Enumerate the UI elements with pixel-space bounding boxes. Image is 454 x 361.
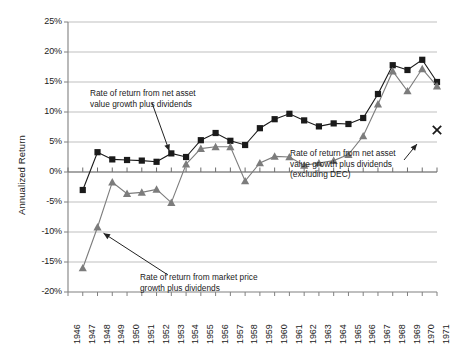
data-point-triangle xyxy=(418,65,426,72)
x-tick-label: 1969 xyxy=(412,324,422,344)
y-tick-label: 20% xyxy=(22,46,62,56)
data-point-square xyxy=(139,158,145,164)
x-tick-label: 1963 xyxy=(323,324,333,344)
data-point-square xyxy=(360,115,366,121)
data-point-square xyxy=(286,111,292,117)
data-point-triangle xyxy=(374,100,382,107)
x-tick-label: 1968 xyxy=(397,324,407,344)
y-tick-label: 5% xyxy=(22,136,62,146)
data-point-square xyxy=(183,154,189,160)
y-tick-label: 15% xyxy=(22,76,62,86)
data-point-square xyxy=(198,137,204,143)
x-tick-label: 1965 xyxy=(353,324,363,344)
x-tick-label: 1959 xyxy=(264,324,274,344)
data-point-triangle xyxy=(152,185,160,192)
x-tick-label: 1949 xyxy=(116,324,126,344)
data-point-square xyxy=(242,142,248,148)
x-tick-label: 1964 xyxy=(338,324,348,344)
y-tick-label: -20% xyxy=(22,286,62,296)
annotation-market: Rate of return from market price growth … xyxy=(140,272,258,293)
annotation-nav-ex-dec: Rate of return from net asset value grow… xyxy=(290,148,396,180)
x-tick-label: 1952 xyxy=(161,324,171,344)
x-tick-label: 1951 xyxy=(146,324,156,344)
data-point-triangle xyxy=(93,223,101,230)
x-tick-label: 1970 xyxy=(426,324,436,344)
data-point-square xyxy=(316,123,322,129)
x-tick-label: 1957 xyxy=(235,324,245,344)
data-point-square xyxy=(345,121,351,127)
data-point-square xyxy=(80,187,86,193)
annotation-arrow-nav-ex-dec xyxy=(404,144,417,160)
data-point-square xyxy=(331,120,337,126)
chart-canvas xyxy=(0,0,454,361)
x-tick-label: 1966 xyxy=(367,324,377,344)
y-tick-label: -10% xyxy=(22,226,62,236)
data-point-square xyxy=(404,67,410,73)
x-tick-label: 1967 xyxy=(382,324,392,344)
y-tick-label: -15% xyxy=(22,256,62,266)
x-tick-label: 1958 xyxy=(249,324,259,344)
y-tick-label: 25% xyxy=(22,16,62,26)
data-point-square xyxy=(301,117,307,123)
x-tick-label: 1962 xyxy=(308,324,318,344)
annotation-nav: Rate of return from net asset value grow… xyxy=(90,88,196,109)
data-point-triangle xyxy=(256,159,264,166)
x-tick-label: 1961 xyxy=(294,324,304,344)
x-tick-label: 1946 xyxy=(72,324,82,344)
chart-figure: Annualized Return25%20%15%10%5%0%-5%-10%… xyxy=(0,0,454,361)
x-tick-label: 1947 xyxy=(87,324,97,344)
data-point-triangle xyxy=(359,132,367,139)
data-point-square xyxy=(213,130,219,136)
x-tick-label: 1971 xyxy=(441,324,451,344)
data-point-triangle xyxy=(79,264,87,271)
data-point-square xyxy=(109,156,115,162)
y-tick-label: 0% xyxy=(22,166,62,176)
series-3 xyxy=(433,126,441,134)
annotation-arrow-market xyxy=(104,233,168,275)
x-tick-label: 1956 xyxy=(220,324,230,344)
data-point-square xyxy=(375,91,381,97)
data-point-square xyxy=(419,57,425,63)
data-point-square xyxy=(168,150,174,156)
annotation-arrow-nav xyxy=(152,103,170,151)
data-point-square xyxy=(257,125,263,131)
x-tick-label: 1948 xyxy=(102,324,112,344)
y-axis-ticks xyxy=(64,22,68,292)
x-tick-label: 1954 xyxy=(190,324,200,344)
x-tick-label: 1953 xyxy=(176,324,186,344)
data-point-square xyxy=(153,159,159,165)
data-point-square xyxy=(124,157,130,163)
x-tick-label: 1955 xyxy=(205,324,215,344)
y-tick-label: 10% xyxy=(22,106,62,116)
data-point-square xyxy=(94,149,100,155)
x-tick-label: 1960 xyxy=(279,324,289,344)
data-point-square xyxy=(272,116,278,122)
data-point-triangle xyxy=(108,178,116,185)
x-tick-label: 1950 xyxy=(131,324,141,344)
y-tick-label: -5% xyxy=(22,196,62,206)
